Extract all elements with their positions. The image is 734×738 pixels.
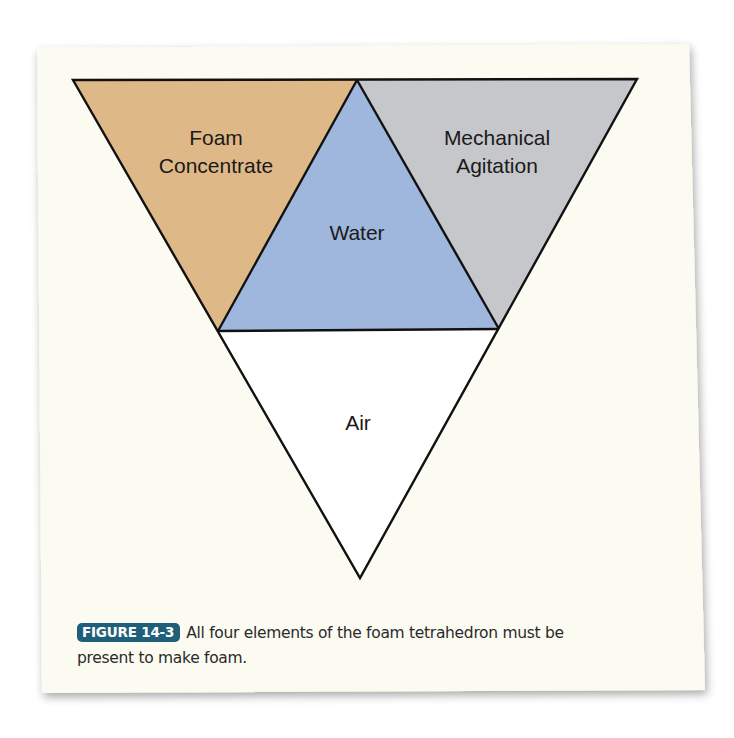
mechanical-label-line2: Agitation <box>456 154 538 177</box>
figure-number-badge: FIGURE 14-3 <box>77 623 180 642</box>
figure-caption: FIGURE 14-3All four elements of the foam… <box>77 621 677 671</box>
figure-page: Foam Concentrate Mechanical Agitation Wa… <box>0 0 734 738</box>
foam-label-line2: Concentrate <box>159 154 273 177</box>
mechanical-label-line1: Mechanical <box>444 126 550 149</box>
air-label: Air <box>345 411 371 434</box>
foam-label-line1: Foam <box>189 126 243 149</box>
caption-text-line1: All four elements of the foam tetrahedro… <box>186 624 564 642</box>
water-label: Water <box>329 221 384 244</box>
caption-text-line2: present to make foam. <box>77 649 247 667</box>
